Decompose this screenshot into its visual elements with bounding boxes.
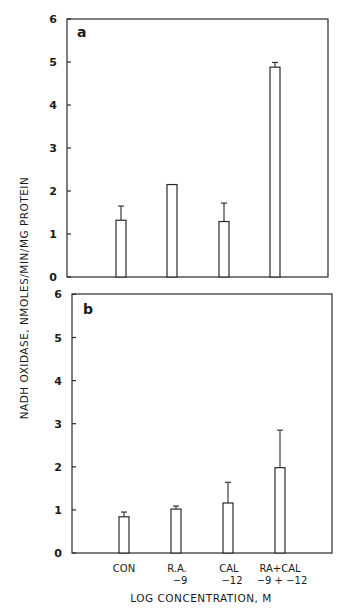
y-tick-label: 3 [49,142,57,155]
bar-a-2 [219,222,229,277]
bar-b-0 [119,517,129,553]
y-tick-label: 6 [49,13,57,26]
category-label: CAL [219,563,239,574]
panel-a-label: a [77,24,86,40]
category-sublabel: −12 [221,575,242,586]
y-tick-label: 0 [54,547,62,560]
category-sublabel: −9 + −12 [257,575,308,586]
panel-b-y-ticks: 0123456 [54,288,76,560]
bar-b-2 [223,503,233,553]
panel-b-label: b [83,301,93,317]
y-tick-label: 2 [49,185,57,198]
category-label: R.A. [167,563,187,574]
y-tick-label: 0 [49,271,57,284]
y-tick-label: 1 [49,228,57,241]
y-tick-label: 2 [54,461,62,474]
bar-a-0 [116,220,126,277]
panel-b-frame [72,294,332,553]
panel-a: a 0123456 [49,13,328,284]
category-label: RA+CAL [259,563,301,574]
bar-b-1 [171,509,181,553]
y-tick-label: 6 [54,288,62,301]
panel-b-bars [119,430,285,553]
category-label: CON [113,563,135,574]
panel-b: b 0123456 [54,288,332,560]
panel-a-y-ticks: 0123456 [49,13,71,284]
category-sublabel: −9 [173,575,188,586]
y-tick-label: 5 [54,332,62,345]
y-tick-label: 4 [49,99,57,112]
bar-a-3 [270,67,280,277]
x-axis-title: LOG CONCENTRATION, M [130,592,272,604]
y-tick-label: 1 [54,504,62,517]
y-axis-title: NADH OXIDASE, NMOLES/MIN/MG PROTEIN [18,177,30,420]
panel-a-bars [116,62,280,277]
bar-chart-figure: NADH OXIDASE, NMOLES/MIN/MG PROTEIN a 01… [0,0,343,611]
panel-a-frame [67,19,328,277]
x-category-labels: CONR.A.−9CAL−12RA+CAL−9 + −12 [113,563,307,586]
bar-b-3 [275,468,285,553]
y-tick-label: 3 [54,418,62,431]
y-tick-label: 4 [54,375,62,388]
y-tick-label: 5 [49,56,57,69]
bar-a-1 [167,185,177,277]
